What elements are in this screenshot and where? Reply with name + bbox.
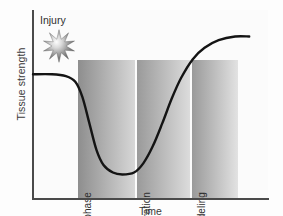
phase-band-remodeling: Remodeling [192, 60, 238, 199]
injury-label: Injury [40, 14, 66, 26]
phase-band-lag-phase: Lag phase [78, 60, 135, 199]
starburst-icon [42, 29, 76, 63]
y-axis-line [32, 10, 34, 200]
tissue-healing-figure: Tissue strength Lag phase Regeneration R… [0, 0, 283, 216]
x-axis-line [32, 198, 269, 200]
phase-band-fill [78, 60, 135, 199]
injury-annotation: Injury [36, 14, 98, 70]
phase-band-regeneration: Regeneration [137, 60, 190, 199]
phase-band-fill [192, 60, 238, 199]
phase-band-fill [137, 60, 190, 199]
y-axis-label: Tissue strength [15, 19, 27, 149]
x-axis-label: Time [33, 205, 268, 216]
